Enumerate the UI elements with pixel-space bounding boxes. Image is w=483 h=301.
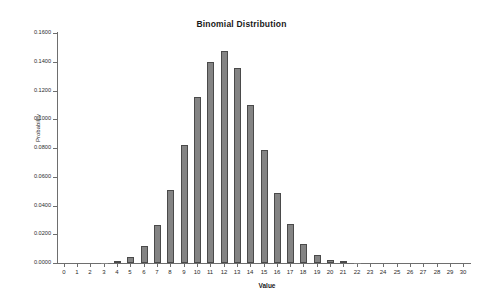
- x-axis-tick: [410, 263, 411, 267]
- y-axis-tick-label-text: 0.0800: [3, 144, 51, 150]
- x-axis-tick: [317, 263, 318, 267]
- y-axis-tick-label-text: 0.0200: [3, 230, 51, 236]
- y-axis-tick-label-text: 0.1200: [3, 87, 51, 93]
- x-axis-tick: [104, 263, 105, 267]
- y-axis-tick-label: 0.0800: [0, 144, 51, 152]
- bar: [314, 255, 321, 263]
- y-axis-tick-label-text: 0.1000: [3, 115, 51, 121]
- x-axis-tick-label: 30: [455, 269, 471, 275]
- x-axis-tick: [237, 263, 238, 267]
- y-axis-tick-label: 0.1600: [0, 29, 51, 37]
- x-axis-tick: [210, 263, 211, 267]
- x-axis-tick: [170, 263, 171, 267]
- x-axis-tick: [357, 263, 358, 267]
- x-axis-tick: [264, 263, 265, 267]
- y-axis-tick-label-text: 0.0600: [3, 173, 51, 179]
- x-axis-tick: [277, 263, 278, 267]
- bar: [154, 225, 161, 263]
- x-axis-tick: [370, 263, 371, 267]
- bar: [221, 51, 228, 263]
- x-axis-tick: [397, 263, 398, 267]
- x-axis-tick: [250, 263, 251, 267]
- bar: [167, 190, 174, 263]
- y-axis-tick-label-text: 0.1400: [3, 58, 51, 64]
- y-axis-tick-label: 0.0000: [0, 259, 51, 267]
- x-axis-tick: [77, 263, 78, 267]
- bar: [327, 260, 334, 263]
- bar: [300, 244, 307, 263]
- x-axis-tick: [437, 263, 438, 267]
- x-axis-title: Value: [57, 282, 477, 289]
- y-axis-tick-label: 0.0600: [0, 173, 51, 181]
- x-axis-tick: [290, 263, 291, 267]
- y-axis-tick-label-text: 0.1600: [3, 29, 51, 35]
- y-axis-tick-label: 0.1400: [0, 58, 51, 66]
- bar: [114, 261, 121, 263]
- bar: [340, 261, 347, 263]
- bar: [287, 224, 294, 263]
- y-axis-tick-label: 0.1000: [0, 115, 51, 123]
- plot-area: [57, 33, 470, 263]
- x-axis-tick: [450, 263, 451, 267]
- bar: [181, 145, 188, 263]
- bar: [274, 193, 281, 263]
- x-axis-tick: [90, 263, 91, 267]
- bar: [141, 246, 148, 263]
- y-axis-tick-label: 0.1200: [0, 87, 51, 95]
- bar: [127, 257, 134, 263]
- y-axis-tick-label: 0.0400: [0, 202, 51, 210]
- x-axis-tick: [157, 263, 158, 267]
- bar: [207, 62, 214, 263]
- y-axis-tick-label-text: 0.0400: [3, 202, 51, 208]
- x-axis-tick: [64, 263, 65, 267]
- x-axis-tick: [197, 263, 198, 267]
- y-axis-tick-label-text: 0.0000: [3, 259, 51, 265]
- x-axis-tick: [330, 263, 331, 267]
- y-axis-tick: [53, 263, 58, 264]
- x-axis-tick: [117, 263, 118, 267]
- y-axis-tick-label: 0.0200: [0, 230, 51, 238]
- x-axis-tick: [184, 263, 185, 267]
- x-axis-tick: [144, 263, 145, 267]
- bar: [194, 97, 201, 263]
- x-axis-tick: [383, 263, 384, 267]
- x-axis-tick: [224, 263, 225, 267]
- binomial-distribution-chart: Binomial Distribution Probability 0.0000…: [0, 0, 483, 301]
- bar: [261, 150, 268, 263]
- x-axis-tick: [423, 263, 424, 267]
- x-axis-tick: [343, 263, 344, 267]
- chart-title: Binomial Distribution: [0, 19, 483, 29]
- x-axis-tick: [463, 263, 464, 267]
- bar: [247, 105, 254, 263]
- bar: [234, 68, 241, 264]
- x-axis-tick: [130, 263, 131, 267]
- x-axis-tick: [303, 263, 304, 267]
